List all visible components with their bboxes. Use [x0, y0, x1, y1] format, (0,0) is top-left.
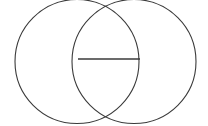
figure-canvas — [0, 0, 208, 126]
circles-diagram — [0, 0, 208, 126]
